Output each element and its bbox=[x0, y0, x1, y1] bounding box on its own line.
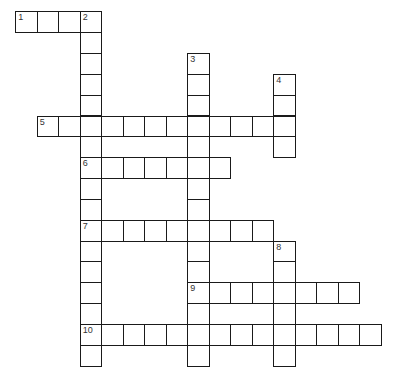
crossword-cell[interactable] bbox=[144, 116, 167, 138]
crossword-cell[interactable] bbox=[58, 116, 81, 138]
crossword-cell[interactable] bbox=[144, 220, 167, 242]
clue-number: 8 bbox=[276, 242, 281, 253]
crossword-cell[interactable] bbox=[58, 11, 81, 33]
crossword-cell[interactable] bbox=[338, 282, 361, 304]
clue-number: 2 bbox=[83, 12, 88, 23]
crossword-cell[interactable] bbox=[273, 95, 296, 117]
crossword-cell[interactable] bbox=[273, 345, 296, 367]
crossword-cell[interactable] bbox=[187, 178, 210, 200]
crossword-cell[interactable] bbox=[273, 282, 296, 304]
crossword-cell-9[interactable]: 9 bbox=[187, 282, 210, 304]
clue-number: 4 bbox=[276, 75, 281, 86]
crossword-cell[interactable] bbox=[144, 324, 167, 346]
clue-number: 10 bbox=[83, 325, 93, 336]
crossword-cell[interactable] bbox=[187, 220, 210, 242]
crossword-cell[interactable] bbox=[273, 136, 296, 158]
crossword-cell[interactable] bbox=[209, 282, 232, 304]
crossword-cell[interactable] bbox=[80, 74, 103, 96]
crossword-cell[interactable] bbox=[166, 324, 189, 346]
crossword-cell[interactable] bbox=[252, 116, 275, 138]
crossword-cell[interactable] bbox=[187, 157, 210, 179]
crossword-cell[interactable] bbox=[80, 53, 103, 75]
crossword-cell[interactable] bbox=[101, 324, 124, 346]
crossword-cell[interactable] bbox=[80, 136, 103, 158]
crossword-cell[interactable] bbox=[80, 95, 103, 117]
crossword-cell[interactable] bbox=[80, 32, 103, 54]
clue-number: 3 bbox=[190, 54, 195, 65]
crossword-cell[interactable] bbox=[230, 220, 253, 242]
crossword-cell[interactable] bbox=[209, 157, 232, 179]
crossword-cell[interactable] bbox=[209, 116, 232, 138]
crossword-cell-8[interactable]: 8 bbox=[273, 241, 296, 263]
crossword-cell[interactable] bbox=[187, 324, 210, 346]
crossword-cell[interactable] bbox=[80, 241, 103, 263]
clue-number: 5 bbox=[40, 117, 45, 128]
crossword-cell[interactable] bbox=[80, 199, 103, 221]
crossword-cell-7[interactable]: 7 bbox=[80, 220, 103, 242]
crossword-cell[interactable] bbox=[273, 116, 296, 138]
crossword-cell[interactable] bbox=[230, 116, 253, 138]
crossword-cell-5[interactable]: 5 bbox=[37, 116, 60, 138]
crossword-cell[interactable] bbox=[187, 116, 210, 138]
crossword-cell[interactable] bbox=[252, 220, 275, 242]
crossword-cell-1[interactable]: 1 bbox=[15, 11, 38, 33]
crossword-cell-3[interactable]: 3 bbox=[187, 53, 210, 75]
crossword-cell[interactable] bbox=[123, 220, 146, 242]
crossword-cell-6[interactable]: 6 bbox=[80, 157, 103, 179]
crossword-cell[interactable] bbox=[187, 95, 210, 117]
crossword-cell[interactable] bbox=[80, 261, 103, 283]
crossword-cell[interactable] bbox=[80, 303, 103, 325]
crossword-cell[interactable] bbox=[209, 324, 232, 346]
crossword-cell[interactable] bbox=[80, 345, 103, 367]
crossword-cell[interactable] bbox=[187, 74, 210, 96]
crossword-cell[interactable] bbox=[187, 261, 210, 283]
crossword-cell[interactable] bbox=[359, 324, 382, 346]
crossword-cell[interactable] bbox=[252, 282, 275, 304]
crossword-cell[interactable] bbox=[230, 324, 253, 346]
crossword-cell[interactable] bbox=[187, 345, 210, 367]
crossword-cell[interactable] bbox=[37, 11, 60, 33]
clue-number: 1 bbox=[18, 12, 23, 23]
crossword-cell[interactable] bbox=[123, 324, 146, 346]
crossword-cell[interactable] bbox=[316, 324, 339, 346]
crossword-cell[interactable] bbox=[187, 136, 210, 158]
clue-number: 7 bbox=[83, 221, 88, 232]
crossword-cell[interactable] bbox=[273, 261, 296, 283]
crossword-cell[interactable] bbox=[230, 282, 253, 304]
crossword-cell[interactable] bbox=[187, 199, 210, 221]
crossword-cell[interactable] bbox=[252, 324, 275, 346]
crossword-cell[interactable] bbox=[123, 157, 146, 179]
crossword-cell[interactable] bbox=[273, 324, 296, 346]
crossword-cell[interactable] bbox=[338, 324, 361, 346]
crossword-cell[interactable] bbox=[80, 178, 103, 200]
crossword-cell[interactable] bbox=[316, 282, 339, 304]
crossword-cell[interactable] bbox=[101, 157, 124, 179]
crossword-cell[interactable] bbox=[144, 157, 167, 179]
crossword-cell[interactable] bbox=[166, 157, 189, 179]
crossword-cell[interactable] bbox=[166, 220, 189, 242]
crossword-cell[interactable] bbox=[273, 303, 296, 325]
crossword-cell[interactable] bbox=[187, 241, 210, 263]
crossword-cell[interactable] bbox=[295, 324, 318, 346]
crossword-cell[interactable] bbox=[123, 116, 146, 138]
crossword-cell[interactable] bbox=[101, 220, 124, 242]
crossword-cell[interactable] bbox=[80, 282, 103, 304]
crossword-cell[interactable] bbox=[101, 116, 124, 138]
crossword-cell-2[interactable]: 2 bbox=[80, 11, 103, 33]
crossword-cell[interactable] bbox=[187, 303, 210, 325]
crossword-cell[interactable] bbox=[166, 116, 189, 138]
crossword-cell-4[interactable]: 4 bbox=[273, 74, 296, 96]
crossword-cell[interactable] bbox=[80, 116, 103, 138]
clue-number: 6 bbox=[83, 158, 88, 169]
crossword-grid: 12671039458 bbox=[0, 0, 402, 381]
crossword-cell[interactable] bbox=[209, 220, 232, 242]
crossword-cell[interactable] bbox=[295, 282, 318, 304]
clue-number: 9 bbox=[190, 283, 195, 294]
crossword-cell-10[interactable]: 10 bbox=[80, 324, 103, 346]
